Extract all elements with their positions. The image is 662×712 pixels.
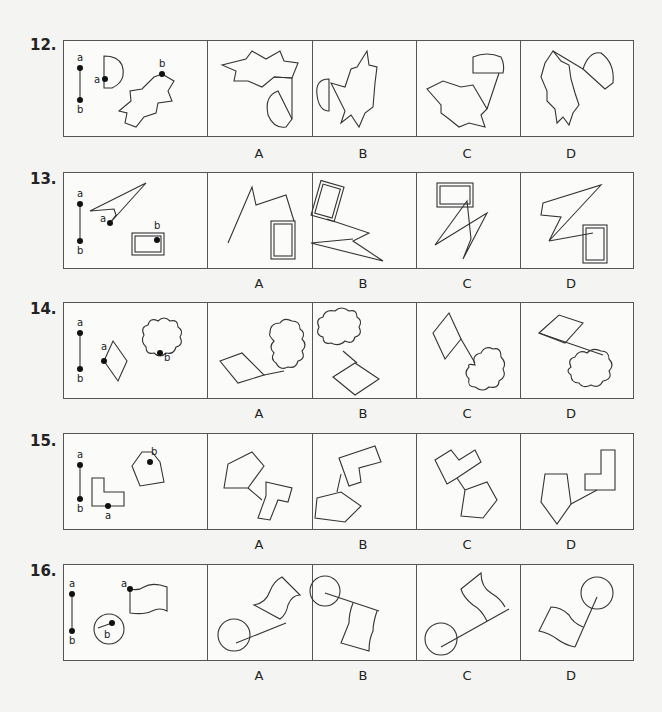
option-label-b: B bbox=[353, 668, 373, 683]
svg-text:a: a bbox=[77, 52, 83, 63]
option-label-a: A bbox=[249, 276, 269, 291]
stem-diagram: ab a b bbox=[64, 434, 207, 529]
option-b[interactable] bbox=[312, 173, 416, 268]
option-a[interactable] bbox=[207, 41, 312, 136]
option-a-diagram bbox=[208, 41, 312, 136]
question-number: 14. bbox=[30, 300, 57, 318]
option-label-a: A bbox=[249, 406, 269, 421]
option-label-c: C bbox=[457, 668, 477, 683]
option-a[interactable] bbox=[207, 565, 312, 660]
option-c[interactable] bbox=[416, 303, 520, 398]
stem-diagram: ab a b bbox=[64, 41, 207, 136]
question-number: 13. bbox=[30, 170, 57, 188]
option-c-diagram bbox=[417, 173, 520, 268]
question-row: ab a b bbox=[63, 172, 634, 269]
svg-text:a: a bbox=[100, 213, 106, 224]
option-b[interactable] bbox=[312, 565, 416, 660]
stem-figure: ab a b bbox=[64, 303, 207, 398]
option-label-d: D bbox=[561, 406, 581, 421]
option-c[interactable] bbox=[416, 434, 520, 529]
option-b-diagram bbox=[313, 41, 416, 136]
option-b[interactable] bbox=[312, 303, 416, 398]
option-label-c: C bbox=[457, 146, 477, 161]
svg-text:a: a bbox=[105, 510, 111, 521]
stem-figure: ab a b bbox=[64, 173, 207, 268]
option-d[interactable] bbox=[520, 41, 635, 136]
svg-text:b: b bbox=[69, 635, 75, 646]
option-label-a: A bbox=[249, 668, 269, 683]
option-d-diagram bbox=[521, 173, 635, 268]
svg-text:a: a bbox=[77, 317, 83, 328]
question-row: ab a b bbox=[63, 40, 634, 137]
option-label-a: A bbox=[249, 537, 269, 552]
option-label-b: B bbox=[353, 146, 373, 161]
option-label-d: D bbox=[561, 276, 581, 291]
option-label-d: D bbox=[561, 146, 581, 161]
option-a-diagram bbox=[208, 565, 312, 660]
option-label-a: A bbox=[249, 146, 269, 161]
option-label-c: C bbox=[457, 537, 477, 552]
svg-text:b: b bbox=[77, 104, 83, 115]
stem-diagram: ab b a bbox=[64, 565, 207, 660]
option-b[interactable] bbox=[312, 434, 416, 529]
stem-diagram: ab a b bbox=[64, 173, 207, 268]
option-label-c: C bbox=[457, 406, 477, 421]
svg-text:b: b bbox=[151, 446, 157, 457]
option-c[interactable] bbox=[416, 41, 520, 136]
option-a[interactable] bbox=[207, 303, 312, 398]
stem-diagram: ab a b bbox=[64, 303, 207, 398]
option-b-diagram bbox=[313, 173, 416, 268]
option-d[interactable] bbox=[520, 565, 635, 660]
option-label-c: C bbox=[457, 276, 477, 291]
svg-text:b: b bbox=[154, 220, 160, 231]
svg-text:b: b bbox=[77, 373, 83, 384]
option-b-diagram bbox=[313, 303, 416, 398]
option-a[interactable] bbox=[207, 173, 312, 268]
question-number: 16. bbox=[30, 562, 57, 580]
option-a[interactable] bbox=[207, 434, 312, 529]
question-row: ab a b bbox=[63, 302, 634, 399]
option-c[interactable] bbox=[416, 173, 520, 268]
option-label-b: B bbox=[353, 276, 373, 291]
option-c[interactable] bbox=[416, 565, 520, 660]
option-a-diagram bbox=[208, 303, 312, 398]
question-row: ab a b bbox=[63, 433, 634, 530]
svg-text:b: b bbox=[164, 352, 170, 363]
stem-figure: ab a b bbox=[64, 434, 207, 529]
svg-text:b: b bbox=[104, 629, 110, 640]
svg-text:a: a bbox=[77, 188, 83, 199]
option-c-diagram bbox=[417, 41, 520, 136]
option-b-diagram bbox=[313, 434, 416, 529]
stem-figure: ab a b bbox=[64, 41, 207, 136]
option-d-diagram bbox=[521, 565, 635, 660]
question-row: ab b a bbox=[63, 564, 634, 661]
option-c-diagram bbox=[417, 434, 520, 529]
option-label-b: B bbox=[353, 406, 373, 421]
svg-text:a: a bbox=[77, 449, 83, 460]
question-number: 12. bbox=[30, 36, 57, 54]
svg-text:a: a bbox=[94, 74, 100, 85]
option-label-d: D bbox=[561, 537, 581, 552]
svg-text:a: a bbox=[69, 578, 75, 589]
option-c-diagram bbox=[417, 565, 520, 660]
option-d[interactable] bbox=[520, 173, 635, 268]
option-label-b: B bbox=[353, 537, 373, 552]
option-label-d: D bbox=[561, 668, 581, 683]
svg-text:b: b bbox=[159, 58, 165, 69]
svg-text:b: b bbox=[77, 503, 83, 514]
option-a-diagram bbox=[208, 434, 312, 529]
svg-text:a: a bbox=[121, 578, 127, 589]
option-d-diagram bbox=[521, 434, 635, 529]
option-c-diagram bbox=[417, 303, 520, 398]
option-b[interactable] bbox=[312, 41, 416, 136]
option-d-diagram bbox=[521, 303, 635, 398]
option-d-diagram bbox=[521, 41, 635, 136]
option-d[interactable] bbox=[520, 434, 635, 529]
question-number: 15. bbox=[30, 432, 57, 450]
option-d[interactable] bbox=[520, 303, 635, 398]
svg-text:b: b bbox=[77, 245, 83, 256]
svg-text:a: a bbox=[101, 341, 107, 352]
option-a-diagram bbox=[208, 173, 312, 268]
option-b-diagram bbox=[313, 565, 416, 660]
stem-figure: ab b a bbox=[64, 565, 207, 660]
